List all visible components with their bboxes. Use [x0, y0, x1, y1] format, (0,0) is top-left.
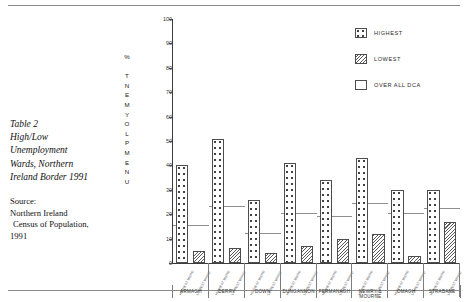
caption-line: Ireland Border 1991 [10, 171, 122, 184]
page-rule-top [8, 5, 460, 6]
y-axis-ticks: 0102030405060708090100 [150, 19, 172, 263]
bar-lowest [408, 256, 420, 263]
district-label-text: DERRY [218, 289, 235, 294]
legend-label: HIGHEST [374, 28, 403, 38]
legend-item-highest: HIGHEST [355, 26, 459, 52]
caption-line: Wards, Northern [10, 158, 122, 171]
y-axis-title-char: U [120, 177, 134, 187]
district-label-text: NEWRY & MOURNE [359, 289, 382, 299]
source-line: Source: [10, 196, 125, 208]
caption-line: Unemployment [10, 144, 122, 157]
district-label-dungannon: DUNGANNON [281, 289, 317, 294]
y-axis-title-char: M [120, 148, 134, 158]
figure-caption: Table 2 High/Low Unemployment Wards, Nor… [10, 118, 122, 184]
district-separator [423, 285, 424, 298]
district-label-text: DOWN [255, 289, 271, 294]
district-separator [316, 285, 317, 298]
y-axis-title-char: O [120, 119, 134, 129]
y-axis-title-char: E [120, 90, 134, 100]
bar-lowest [444, 222, 456, 263]
bar-group: HIGHEST WARDLOWEST WARD [245, 19, 281, 263]
x-axis-category-labels: ARMAGHDERRYDOWNDUNGANNONFERMANAGHNEWRY &… [173, 289, 461, 302]
bar-group: HIGHEST WARDLOWEST WARD [209, 19, 245, 263]
district-separator [208, 285, 209, 298]
y-axis-title-char: L [120, 129, 134, 139]
district-label-text: STRABANE [429, 289, 456, 294]
y-axis-title-char: E [120, 158, 134, 168]
empty-swatch-icon [355, 80, 367, 90]
y-axis-title-char: M [120, 100, 134, 110]
bar-lowest [372, 234, 384, 263]
district-separator [460, 285, 461, 298]
bar-highest [391, 190, 403, 263]
district-separator [172, 285, 173, 298]
bar-lowest [229, 248, 241, 263]
bar-lowest [265, 253, 277, 263]
bar-lowest [301, 246, 313, 263]
bar-highest [176, 165, 188, 263]
district-label-derry: DERRY [209, 289, 245, 294]
y-axis-title-char [120, 62, 134, 72]
bar-lowest [337, 239, 349, 263]
legend-item-lowest: LOWEST [355, 52, 459, 78]
bar-group: HIGHEST WARDLOWEST WARD [281, 19, 317, 263]
caption-line: Table 2 [10, 118, 122, 131]
chart-legend: HIGHEST LOWEST OVER ALL DCA [355, 26, 459, 104]
bar-lowest [193, 251, 205, 263]
y-axis-title-char: Y [120, 110, 134, 120]
district-label-text: DUNGANNON [282, 289, 314, 294]
bar-highest [284, 163, 296, 263]
figure-source: Source: Northern Ireland Census of Popul… [10, 196, 125, 242]
source-line: 1991 [10, 231, 125, 243]
source-line: Census of Population, [10, 219, 125, 231]
bar-highest [320, 180, 332, 263]
legend-label: LOWEST [374, 54, 401, 64]
district-separator [351, 285, 352, 298]
district-label-text: ARMAGH [180, 289, 202, 294]
y-axis-title-char: % [120, 52, 134, 62]
district-label-strabane: STRABANE [424, 289, 460, 294]
district-label-newry-mourne: NEWRY & MOURNE [352, 289, 388, 300]
y-axis-title-char: N [120, 81, 134, 91]
caption-line: High/Low [10, 131, 122, 144]
diagonal-hatch-swatch-icon [355, 54, 367, 64]
legend-label: OVER ALL DCA [374, 80, 421, 90]
bar-highest [427, 190, 439, 263]
bar-highest [212, 139, 224, 263]
dotted-pattern-swatch-icon [355, 28, 367, 38]
bar-highest [356, 158, 368, 263]
district-separator [280, 285, 281, 298]
district-label-text: FERMANAGH [319, 289, 351, 294]
y-axis-title-char: P [120, 138, 134, 148]
bar-group: HIGHEST WARDLOWEST WARD [317, 19, 353, 263]
district-label-down: DOWN [245, 289, 281, 294]
legend-item-overall-dca: OVER ALL DCA [355, 78, 459, 104]
bar-chart: % TNEMYOLPMENU 0102030405060708090100 HI… [126, 12, 460, 284]
bar-group: HIGHEST WARDLOWEST WARD [173, 19, 209, 263]
district-label-fermanagh: FERMANAGH [317, 289, 353, 294]
district-label-omagh: OMAGH [388, 289, 424, 294]
y-axis-title-char: N [120, 167, 134, 177]
district-label-text: OMAGH [397, 289, 416, 294]
bar-highest [248, 200, 260, 263]
district-separator [387, 285, 388, 298]
source-line: Northern Ireland [10, 208, 125, 220]
y-axis-title-char: T [120, 71, 134, 81]
district-separator [244, 285, 245, 298]
y-axis-title: % TNEMYOLPMENU [120, 52, 134, 186]
district-label-armagh: ARMAGH [173, 289, 209, 294]
